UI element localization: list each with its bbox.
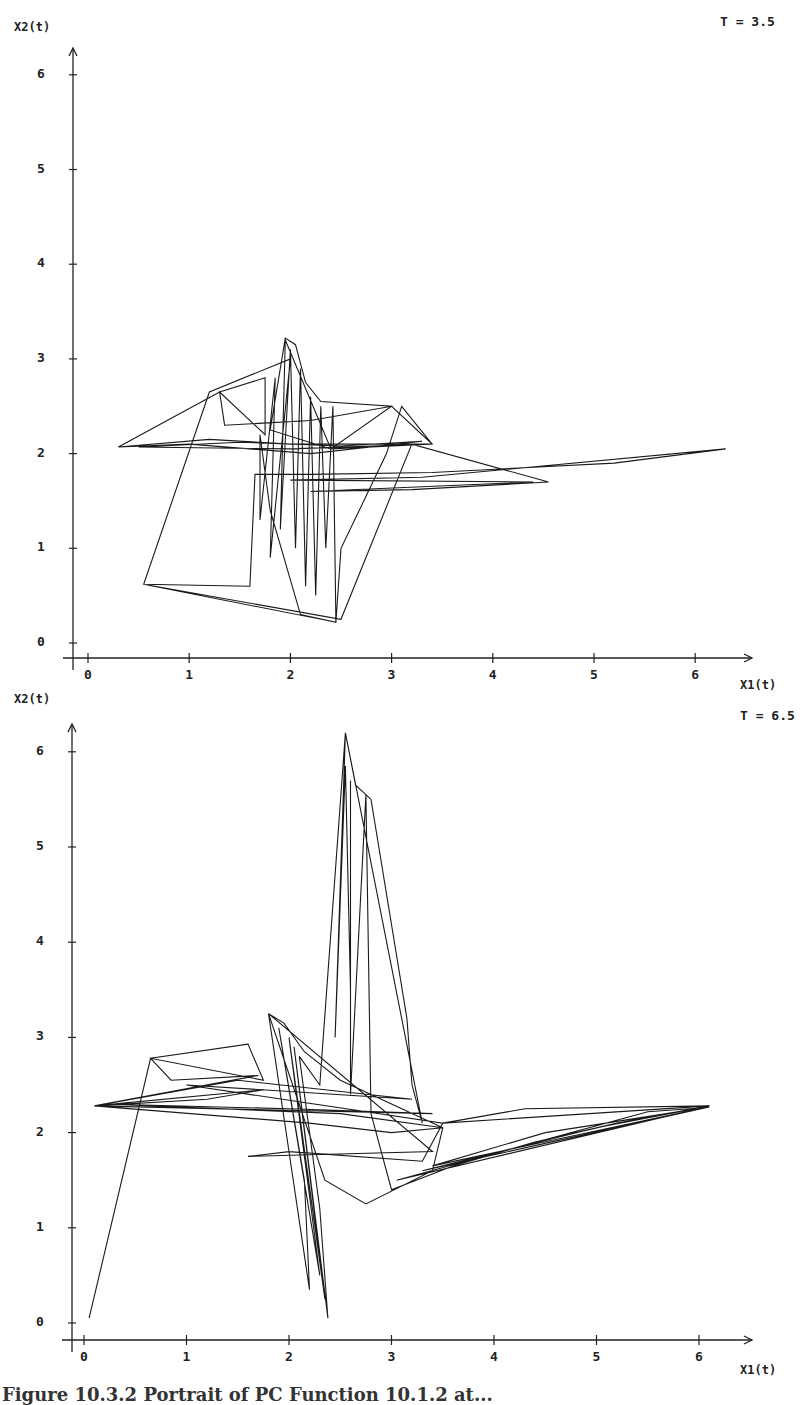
plot-canvas-bottom	[0, 0, 807, 1380]
y-tick-label: 1	[36, 1219, 44, 1234]
y-tick-label: 0	[36, 1314, 44, 1329]
x-tick-label: 4	[490, 1349, 498, 1364]
y-tick-label: 2	[36, 1124, 44, 1139]
x-tick-label: 0	[80, 1349, 88, 1364]
x-tick-label: 2	[285, 1349, 293, 1364]
y-tick-label: 5	[36, 838, 44, 853]
y-tick-label: 3	[36, 1028, 44, 1043]
x-tick-label: 5	[593, 1349, 601, 1364]
figure-caption: Figure 10.3.2 Portrait of PC Function 10…	[2, 1384, 493, 1405]
y-tick-label: 6	[36, 743, 44, 758]
time-annotation-bottom: T = 6.5	[740, 708, 795, 723]
y-axis-label-bottom: X2(t)	[14, 692, 50, 706]
phase-portrait-bottom: X2(t) T = 6.5 X1(t) 01234560123456	[0, 0, 807, 1380]
x-axis-label-bottom: X1(t)	[740, 1363, 776, 1377]
x-tick-label: 1	[183, 1349, 191, 1364]
trajectory-line	[89, 733, 709, 1318]
y-tick-label: 4	[36, 933, 44, 948]
x-tick-label: 6	[695, 1349, 703, 1364]
x-tick-label: 3	[388, 1349, 396, 1364]
